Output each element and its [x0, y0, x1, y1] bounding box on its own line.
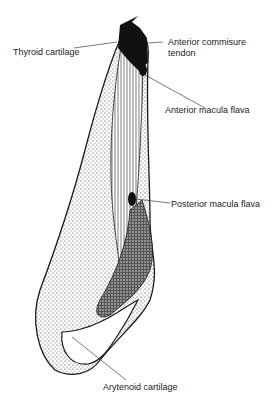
- anterior-macula: [139, 64, 147, 76]
- label-anterior-commissure: Anterior commisure: [168, 37, 246, 47]
- label-anterior-macula-flava: Anterior macula flava: [165, 105, 250, 115]
- posterior-macula: [128, 192, 136, 206]
- label-thyroid-cartilage: Thyroid cartilage: [13, 47, 80, 57]
- label-posterior-macula-flava: Posterior macula flava: [171, 199, 260, 209]
- label-anterior-commissure-tendon: tendon: [168, 48, 196, 58]
- label-arytenoid-cartilage: Arytenoid cartilage: [103, 382, 178, 392]
- vocal-fold-illustration: [0, 0, 279, 395]
